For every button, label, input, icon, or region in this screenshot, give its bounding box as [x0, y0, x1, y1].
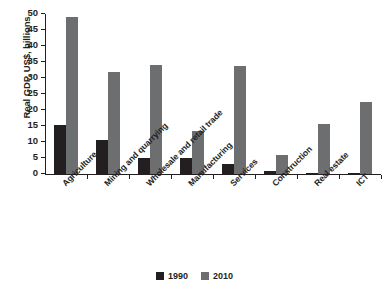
x-tick — [255, 175, 256, 179]
legend-item[interactable]: 2010 — [201, 271, 233, 281]
x-tick — [171, 175, 172, 179]
legend-swatch — [156, 272, 164, 280]
y-tick: 30 — [41, 77, 45, 78]
plot-area: 50454035302520151050 — [45, 14, 381, 175]
y-tick-label: 10 — [27, 134, 38, 147]
y-tick: 50 — [41, 13, 45, 14]
bar — [138, 158, 150, 174]
bar-group — [54, 14, 78, 174]
x-tick — [213, 175, 214, 179]
y-tick: 45 — [41, 29, 45, 30]
y-tick: 25 — [41, 93, 45, 94]
bar — [264, 171, 276, 174]
y-tick-label: 20 — [27, 102, 38, 115]
bar — [180, 158, 192, 174]
bar — [108, 72, 120, 174]
bar-group — [96, 14, 120, 174]
bar — [348, 173, 360, 174]
y-tick: 40 — [41, 45, 45, 46]
chart-legend: 19902010 — [0, 271, 389, 281]
y-tick: 5 — [41, 157, 45, 158]
legend-label: 1990 — [168, 271, 188, 281]
bar — [222, 164, 234, 174]
x-tick — [381, 175, 382, 179]
bar — [306, 173, 318, 174]
x-tick — [297, 175, 298, 179]
bar-group — [264, 14, 288, 174]
bar — [234, 66, 246, 174]
y-tick-label: 25 — [27, 86, 38, 99]
y-tick: 35 — [41, 61, 45, 62]
y-tick-label: 45 — [27, 22, 38, 35]
x-tick — [87, 175, 88, 179]
y-tick-label: 5 — [33, 150, 38, 163]
y-tick: 20 — [41, 109, 45, 110]
bar-group — [348, 14, 372, 174]
x-tick — [339, 175, 340, 179]
y-axis-line — [45, 14, 46, 175]
legend-swatch — [201, 272, 209, 280]
bar — [54, 125, 66, 174]
y-tick-label: 50 — [27, 6, 38, 19]
y-tick-label: 40 — [27, 38, 38, 51]
x-tick — [129, 175, 130, 179]
y-tick-label: 15 — [27, 118, 38, 131]
bar — [360, 102, 372, 174]
y-tick: 10 — [41, 141, 45, 142]
y-tick: 15 — [41, 125, 45, 126]
legend-item[interactable]: 1990 — [156, 271, 188, 281]
legend-label: 2010 — [213, 271, 233, 281]
bar — [66, 17, 78, 174]
y-tick-label: 35 — [27, 54, 38, 67]
y-tick-label: 0 — [33, 166, 38, 179]
bar-chart: Real GDP, US$, billions 5045403530252015… — [0, 0, 389, 293]
y-tick-label: 30 — [27, 70, 38, 83]
y-tick: 0 — [41, 173, 45, 174]
bar — [150, 65, 162, 174]
